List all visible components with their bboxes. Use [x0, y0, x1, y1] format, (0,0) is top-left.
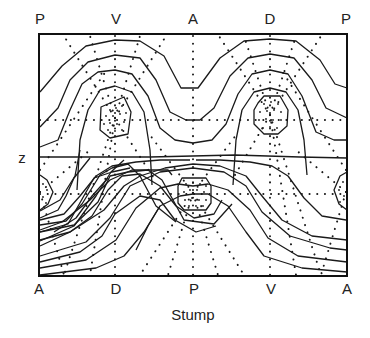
top-label-d: D [265, 10, 276, 27]
top-label-a: A [188, 10, 198, 27]
bottom-label-d: D [111, 280, 122, 297]
top-label-p-left: P [35, 10, 45, 27]
top-label-p-right: P [341, 10, 351, 27]
x-axis-title: Stump [171, 306, 214, 323]
diagram-canvas: P V A D P A D P V A Stump z [0, 0, 370, 338]
bottom-label-p: P [189, 280, 199, 297]
bottom-label-v: V [266, 280, 276, 297]
top-labels: P V A D P [35, 10, 351, 27]
top-label-v: V [111, 10, 121, 27]
bottom-label-a-left: A [34, 280, 44, 297]
peak-a-right [334, 172, 347, 210]
bottom-label-a-right: A [342, 280, 352, 297]
bottom-labels: A D P V A [34, 280, 352, 297]
contour-diagram: P V A D P A D P V A Stump z [0, 0, 370, 338]
y-axis-title: z [18, 149, 26, 166]
